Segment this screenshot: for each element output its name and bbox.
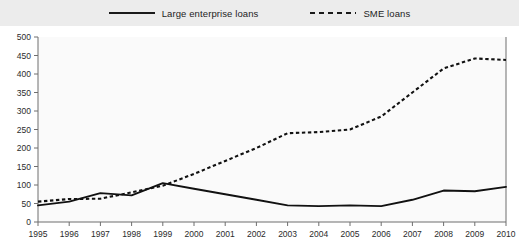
y-axis-tick-label: 100: [17, 180, 31, 190]
x-axis-tick-label: 2008: [434, 229, 453, 239]
y-axis-tick-label: 150: [17, 162, 31, 172]
x-axis-tick-label: 2005: [341, 229, 360, 239]
x-axis-tick-label: 2000: [185, 229, 204, 239]
legend-band: Large enterprise loans SME loans: [0, 0, 519, 26]
plot-area: 050100150200250300350400450500 199519961…: [0, 26, 519, 246]
x-axis-tick-label: 1999: [153, 229, 172, 239]
y-axis-tick-label: 250: [17, 125, 31, 135]
x-axis-tick-label: 2001: [216, 229, 235, 239]
chart-legend: Large enterprise loans SME loans: [0, 0, 519, 26]
legend-label-large-enterprise-loans: Large enterprise loans: [162, 8, 259, 19]
legend-item-sme-loans: SME loans: [310, 8, 410, 19]
y-axis-tick-label: 50: [22, 199, 32, 209]
y-axis-tick-label: 450: [17, 51, 31, 61]
x-axis-tick-label: 2002: [247, 229, 266, 239]
x-axis-tick-label: 1995: [29, 229, 48, 239]
x-axis-tick-label: 2007: [403, 229, 422, 239]
x-axis-tick-label: 1996: [60, 229, 79, 239]
x-axis-ticks: [38, 222, 506, 226]
legend-swatch-dashed-icon: [310, 8, 356, 18]
y-axis-labels: 050100150200250300350400450500: [17, 32, 31, 227]
legend-item-large-enterprise-loans: Large enterprise loans: [109, 8, 259, 19]
y-axis-tick-label: 200: [17, 143, 31, 153]
line-chart: 050100150200250300350400450500 199519961…: [0, 26, 519, 246]
y-axis-tick-label: 500: [17, 32, 31, 42]
chart-root: Large enterprise loans SME loans 0501001…: [0, 0, 519, 246]
x-axis-tick-label: 2003: [278, 229, 297, 239]
legend-label-sme-loans: SME loans: [363, 8, 410, 19]
x-axis-tick-label: 1998: [122, 229, 141, 239]
x-axis-tick-label: 1997: [91, 229, 110, 239]
legend-swatch-solid-icon: [109, 8, 155, 18]
x-axis-tick-label: 2009: [465, 229, 484, 239]
y-axis-tick-label: 300: [17, 106, 31, 116]
y-axis-tick-label: 400: [17, 69, 31, 79]
y-axis-tick-label: 0: [26, 217, 31, 227]
x-axis-labels: 1995199619971998199920002001200220032004…: [29, 229, 516, 239]
x-axis-tick-label: 2006: [372, 229, 391, 239]
x-axis-tick-label: 2004: [309, 229, 328, 239]
y-axis-tick-label: 350: [17, 88, 31, 98]
y-axis-ticks: [34, 37, 38, 222]
x-axis-tick-label: 2010: [497, 229, 516, 239]
